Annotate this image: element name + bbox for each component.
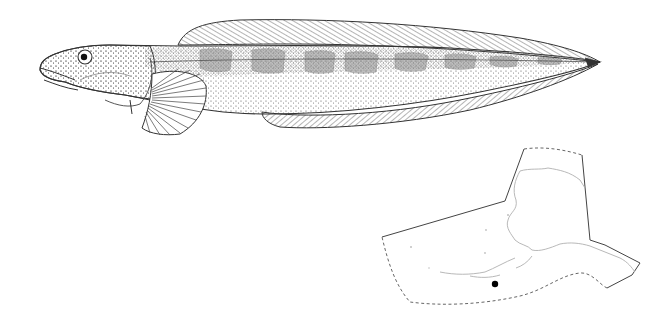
alaska-coastline bbox=[440, 168, 635, 277]
land-boundary bbox=[382, 149, 640, 288]
fish-illustration bbox=[40, 20, 600, 135]
fish-pupil bbox=[81, 54, 87, 60]
fish-head bbox=[40, 45, 155, 100]
islands bbox=[410, 214, 509, 269]
pectoral-fin bbox=[142, 69, 206, 135]
pelvic-fin bbox=[130, 100, 132, 114]
distribution-map bbox=[382, 148, 640, 304]
figure-plate: Lateral-view stippled line drawing of an… bbox=[0, 0, 671, 329]
locality-marker bbox=[492, 281, 498, 287]
sea-boundary bbox=[382, 148, 607, 304]
